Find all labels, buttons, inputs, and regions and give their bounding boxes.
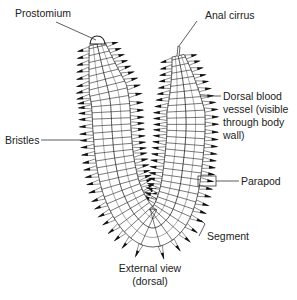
bristle-tuft: [156, 92, 163, 95]
bristle-tuft: [152, 141, 159, 144]
bristle-tuft: [81, 153, 88, 156]
bristle-tuft: [86, 182, 94, 185]
bristle-tuft: [212, 115, 219, 118]
bristle-tuft: [142, 164, 150, 167]
bristle-tuft: [79, 132, 86, 135]
segment-bracket: [199, 220, 205, 236]
bristle-tuft: [124, 66, 131, 69]
bristle-tuft: [159, 67, 166, 70]
bristle-tuft: [141, 159, 149, 162]
anal-cirrus-leader: [179, 21, 197, 46]
bristle-tuft: [76, 84, 83, 87]
bristle-tuft: [211, 145, 218, 148]
bristle-tuft: [77, 106, 84, 109]
bristle-tuft: [75, 90, 82, 93]
bristle-tuft: [155, 98, 162, 101]
caption-line-1: External view: [100, 262, 200, 275]
bristle-tuft: [208, 172, 215, 175]
bristle-tuft: [202, 202, 209, 206]
bristle-tuft: [158, 79, 165, 82]
bristle-tuft: [200, 210, 207, 214]
label-parapod: Parapod: [241, 175, 281, 188]
bristle-tuft: [134, 85, 142, 88]
bristle-tuft: [210, 159, 217, 162]
bristle-tuft: [118, 54, 125, 57]
dorsal-line-4: wall): [223, 129, 245, 142]
bristle-tuft: [206, 187, 214, 190]
bristle-tuft: [149, 166, 156, 169]
bristle-tuft: [153, 117, 160, 120]
bristle-tuft: [154, 105, 161, 108]
bristle-tuft: [157, 86, 164, 89]
bristle-tuft: [140, 152, 148, 155]
parapod: [202, 101, 215, 105]
bristle-tuft: [76, 77, 83, 80]
worm-diagram: Prostomium Anal cirrus Dorsal blood vess…: [0, 0, 297, 300]
bristle-tuft: [91, 198, 98, 202]
bristle-tuft: [135, 93, 143, 96]
bristle-tuft: [94, 205, 101, 209]
bristle-tuft: [121, 60, 128, 63]
bristle-tuft: [210, 152, 217, 155]
bristle-tuft: [212, 123, 219, 126]
caption: External view (dorsal): [100, 262, 200, 288]
bristle-tuft: [76, 62, 83, 65]
bristle-tuft: [207, 179, 214, 182]
bristle-tuft: [209, 166, 216, 169]
bristle-tuft: [84, 175, 92, 178]
bristle-tuft: [150, 159, 157, 162]
bristle-tuft: [153, 111, 160, 114]
bristle-tuft: [83, 168, 91, 171]
bristle-tuft: [78, 118, 85, 121]
bristle-tuft: [153, 123, 160, 126]
bristle-tuft: [139, 141, 146, 144]
bristle-tuft: [151, 153, 158, 156]
bristle-tuft: [97, 213, 104, 218]
dorsal-line-2: vessel (visible: [223, 103, 288, 116]
bristle-tuft: [212, 138, 219, 141]
worm-illustration: [0, 0, 297, 300]
bristle-tuft: [159, 73, 166, 76]
bristle-tuft: [151, 147, 158, 150]
bristle-tuft: [161, 252, 164, 259]
bristle-tuft: [194, 61, 201, 64]
prostomium: [90, 36, 105, 44]
bristle-tuft: [204, 194, 212, 197]
bristle-tuft: [139, 135, 146, 138]
bristle-tuft: [82, 161, 90, 164]
label-anal-cirrus: Anal cirrus: [205, 9, 255, 22]
bristle-tuft: [137, 109, 144, 112]
bristle-tuft: [209, 101, 216, 104]
bristle-tuft: [137, 101, 144, 104]
bristle-tuft: [202, 81, 209, 84]
bristle-tuft: [78, 125, 85, 128]
bristle-tuft: [88, 190, 95, 194]
bristle-tuft: [152, 128, 159, 131]
bristle-tuft: [135, 250, 139, 257]
bristle-tuft: [212, 108, 219, 111]
bristle-tuft: [80, 146, 87, 149]
label-bristles: Bristles: [5, 134, 39, 147]
prostomium-leader: [56, 22, 96, 40]
dorsal-line-3: through body: [223, 116, 284, 129]
bristle-tuft: [76, 96, 84, 99]
bristle-tuft: [205, 88, 212, 91]
bristle-tuft: [191, 54, 198, 57]
bristle-tuft: [140, 147, 147, 150]
caption-line-2: (dorsal): [100, 275, 200, 288]
bristle-tuft: [77, 49, 84, 52]
bristle-tuft: [137, 116, 144, 119]
dorsal-line-1: Dorsal blood: [223, 90, 282, 103]
bristle-tuft: [115, 48, 122, 51]
bristle-tuft: [77, 101, 85, 104]
parapod: [155, 103, 168, 107]
label-prostomium: Prostomium: [15, 7, 71, 20]
bristle-tuft: [131, 78, 138, 81]
bristle-tuft: [78, 112, 85, 115]
bristle-tuft: [76, 69, 83, 72]
anal-cirrus: [177, 46, 180, 56]
bristle-tuft: [200, 74, 207, 77]
bristle-tuft: [138, 122, 145, 125]
bristle-tuft: [128, 71, 135, 74]
bristle-tuft: [212, 130, 219, 133]
